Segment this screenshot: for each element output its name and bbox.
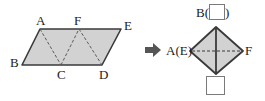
figure-canvas: A F E B C D B() A(E) F — [0, 0, 265, 101]
rhombus-label-right: F — [245, 44, 252, 57]
missing-glyph-box-top — [209, 4, 225, 20]
vertex-label-b: B — [10, 56, 19, 69]
parallelogram-outline — [22, 29, 121, 65]
rhombus-label-top: B() — [196, 4, 229, 20]
vertex-label-c: C — [57, 68, 66, 81]
vertex-label-d: D — [99, 68, 108, 81]
rhombus-label-left: A(E) — [166, 44, 192, 57]
rhombus-label-top-suffix: ) — [225, 5, 229, 20]
vertex-label-e: E — [124, 19, 132, 32]
arrow-right-icon — [145, 43, 161, 57]
transform-arrow-icon — [145, 43, 161, 57]
missing-glyph-box-bottom — [206, 76, 225, 95]
vertex-label-a: A — [36, 14, 45, 27]
vertex-label-f: F — [74, 14, 81, 27]
right-rhombus — [190, 27, 243, 74]
left-parallelogram — [22, 29, 121, 65]
rhombus-label-top-prefix: B( — [196, 5, 209, 20]
